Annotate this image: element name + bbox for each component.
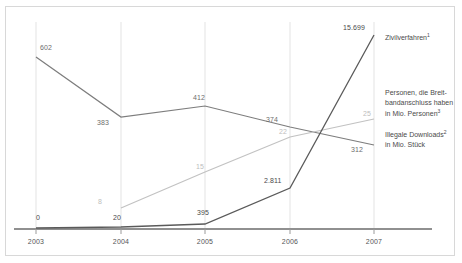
legend-zivilverfahren-label: Zivilverfahren <box>385 34 427 41</box>
legend-downloads-line1: Illegale Downloads <box>385 131 444 138</box>
chart-figure: 602 383 412 374 312 8 15 22 25 0 20 395 … <box>0 0 462 263</box>
legend-zivilverfahren-footnote: 1 <box>427 32 430 38</box>
legend-zivilverfahren: Zivilverfahren1 <box>385 31 430 43</box>
value-label-breitband-2004: 8 <box>98 198 102 206</box>
x-tick-2004: 2004 <box>101 238 141 245</box>
series-line-breitband <box>121 119 374 208</box>
value-label-zivilverfahren-2004: 20 <box>113 214 121 222</box>
legend-breitband-footnote: 3 <box>438 108 441 114</box>
legend-downloads-footnote: 2 <box>444 129 447 135</box>
x-tick-2006: 2006 <box>270 238 310 245</box>
x-tick-2003: 2003 <box>16 238 56 245</box>
value-label-zivilverfahren-2003: 0 <box>36 214 40 222</box>
value-label-zivilverfahren-2005: 395 <box>197 209 209 217</box>
value-label-breitband-2007: 25 <box>363 110 371 118</box>
legend-breitband-line2: bandanschluss haben <box>385 98 453 108</box>
value-label-downloads-2005: 412 <box>193 94 205 102</box>
value-label-downloads-2006: 374 <box>266 116 278 124</box>
legend-downloads-line2: in Mio. Stück <box>385 140 447 150</box>
x-tick-2007: 2007 <box>354 238 394 245</box>
value-label-breitband-2005: 15 <box>196 163 204 171</box>
value-label-zivilverfahren-2006: 2.811 <box>264 177 282 185</box>
value-label-breitband-2006: 22 <box>279 128 287 136</box>
legend-breitband: Personen, die Breit- bandanschluss haben… <box>385 88 453 119</box>
value-label-downloads-2003: 602 <box>40 44 52 52</box>
x-tick-2005: 2005 <box>185 238 225 245</box>
x-axis-line <box>14 229 432 234</box>
legend-breitband-line1: Personen, die Breit- <box>385 88 453 98</box>
legend-downloads: Illegale Downloads2 in Mio. Stück <box>385 128 447 149</box>
gridlines <box>36 22 374 228</box>
value-label-zivilverfahren-2007: 15.699 <box>343 24 365 32</box>
value-label-downloads-2007: 312 <box>351 146 363 154</box>
legend-breitband-line3: in Mio. Personen <box>385 110 438 117</box>
value-label-downloads-2004: 383 <box>97 119 109 127</box>
